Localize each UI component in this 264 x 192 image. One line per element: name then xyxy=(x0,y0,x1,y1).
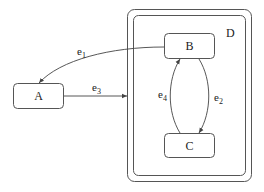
statechart-diagram: D A B C e1 e3 e2 e4 xyxy=(0,0,264,192)
transition-e1-label: e1 xyxy=(77,45,86,60)
transition-e3-label: e3 xyxy=(92,81,101,96)
state-b-label: B xyxy=(185,39,193,53)
transition-e2[interactable]: e2 xyxy=(199,59,223,133)
transition-e4-label: e4 xyxy=(158,88,167,103)
transition-e1[interactable]: e1 xyxy=(39,45,164,83)
state-a[interactable]: A xyxy=(14,84,64,109)
state-b[interactable]: B xyxy=(165,34,215,59)
transition-e2-label: e2 xyxy=(214,91,223,106)
state-c-label: C xyxy=(185,139,193,153)
transition-e4[interactable]: e4 xyxy=(158,59,180,133)
transition-e3[interactable]: e3 xyxy=(64,81,127,96)
state-a-label: A xyxy=(34,89,43,103)
state-c[interactable]: C xyxy=(165,134,215,158)
state-d-label: D xyxy=(226,26,235,40)
